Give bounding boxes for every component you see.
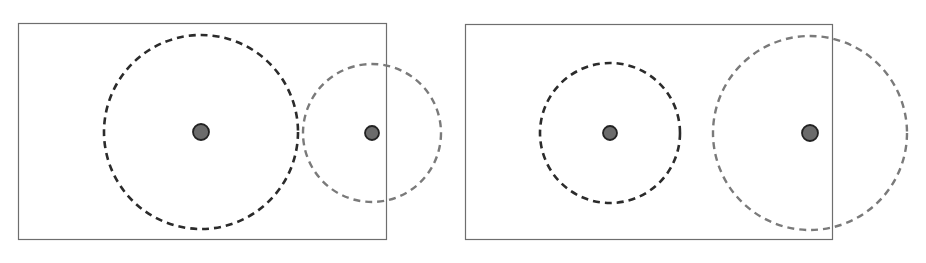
left-large-center-dot <box>193 124 209 140</box>
left-small-center-dot <box>365 126 379 140</box>
diagram-canvas <box>0 0 926 263</box>
right-panel <box>466 25 908 240</box>
right-frame <box>466 25 833 240</box>
left-panel <box>19 24 442 240</box>
right-large-center-dot <box>802 125 818 141</box>
right-small-center-dot <box>603 126 617 140</box>
